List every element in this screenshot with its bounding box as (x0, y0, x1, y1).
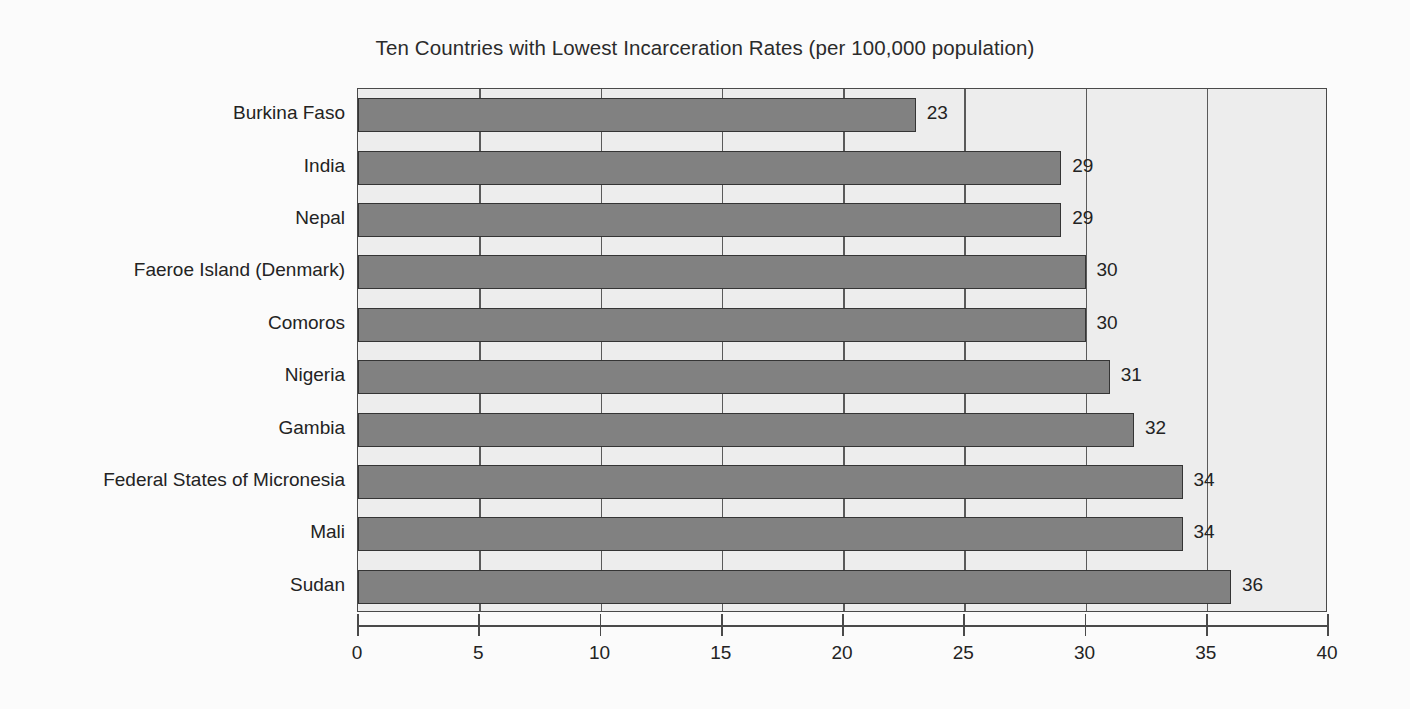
x-tick (1206, 614, 1208, 636)
x-tick-label: 5 (473, 642, 484, 664)
x-tick (721, 614, 723, 636)
x-tick-label: 0 (352, 642, 363, 664)
x-tick-label: 40 (1316, 642, 1337, 664)
bar-value-labels: 23292930303132343436 (357, 88, 1410, 612)
value-label: 30 (1097, 312, 1118, 334)
value-label: 36 (1242, 574, 1263, 596)
category-label: Burkina Faso (0, 102, 345, 124)
x-tick-label: 20 (831, 642, 852, 664)
category-label: Federal States of Micronesia (0, 469, 345, 491)
category-label: Faeroe Island (Denmark) (0, 259, 345, 281)
x-tick (478, 614, 480, 636)
x-tick-label: 30 (1074, 642, 1095, 664)
x-tick (1327, 614, 1329, 636)
category-label: Sudan (0, 574, 345, 596)
value-label: 34 (1194, 521, 1215, 543)
category-label: Mali (0, 521, 345, 543)
x-tick (600, 614, 602, 636)
chart-page: Ten Countries with Lowest Incarceration … (0, 0, 1410, 709)
value-label: 31 (1121, 364, 1142, 386)
value-label: 30 (1097, 259, 1118, 281)
value-label: 34 (1194, 469, 1215, 491)
x-tick (842, 614, 844, 636)
x-tick-label: 35 (1195, 642, 1216, 664)
x-tick-label: 25 (953, 642, 974, 664)
x-axis: 0510152025303540 (357, 625, 1327, 627)
category-label: Gambia (0, 417, 345, 439)
category-axis-labels: Burkina FasoIndiaNepalFaeroe Island (Den… (0, 88, 345, 612)
chart-title: Ten Countries with Lowest Incarceration … (0, 36, 1410, 60)
value-label: 23 (927, 102, 948, 124)
value-label: 29 (1072, 155, 1093, 177)
value-label: 29 (1072, 207, 1093, 229)
category-label: Nepal (0, 207, 345, 229)
x-tick-label: 15 (710, 642, 731, 664)
category-label: Nigeria (0, 364, 345, 386)
x-tick (963, 614, 965, 636)
category-label: India (0, 155, 345, 177)
category-label: Comoros (0, 312, 345, 334)
x-tick-label: 10 (589, 642, 610, 664)
x-tick (1085, 614, 1087, 636)
x-tick (357, 614, 359, 636)
value-label: 32 (1145, 417, 1166, 439)
